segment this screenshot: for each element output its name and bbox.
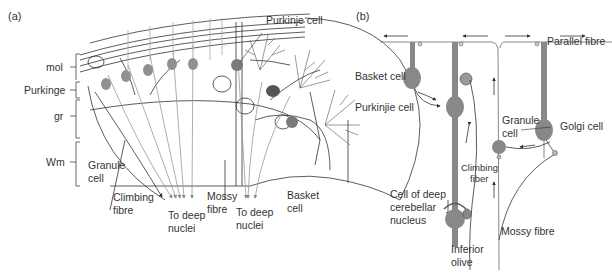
label-climbing-fibre-line1: Climbing: [113, 191, 154, 203]
label-granule-cell-a-line1: Granule: [88, 159, 125, 171]
label-to-deep-nuclei-right-line1: To deep: [236, 206, 273, 218]
label-deep-nucleus-line1: Cell of deep: [390, 188, 446, 200]
panel-b-drawing: [380, 36, 612, 270]
label-deep-nucleus-line3: nucleus: [390, 214, 426, 226]
label-purkinje-cell-a: Purkinje cell: [266, 14, 323, 26]
label-basket-cell-b: Basket cell: [355, 70, 406, 82]
label-basket-cell-a-line2: cell: [287, 202, 303, 214]
label-granule-cell-a-line2: cell: [88, 172, 104, 184]
panel-a-tag: (a): [8, 10, 21, 22]
panel-a-cells: [101, 58, 298, 128]
label-deep-nucleus-line2: cerebellar: [390, 201, 436, 213]
layer-bracket: [70, 54, 80, 186]
label-purkinje-cell-b: Purkinjie cell: [355, 101, 414, 113]
layer-label-gr: gr: [54, 110, 63, 122]
label-to-deep-nuclei-left-line1: To deep: [168, 209, 205, 221]
label-mossy-fibre-b: Mossy fibre: [501, 225, 555, 237]
label-basket-cell-a-line1: Basket: [287, 189, 319, 201]
label-inferior-olive-line1: Inferior: [451, 243, 484, 255]
label-climbing-fibre-line2: fibre: [113, 204, 133, 216]
layer-label-wm: Wm: [46, 156, 65, 168]
label-granule-cell-b-line1: Granule: [502, 114, 539, 126]
label-to-deep-nuclei-right-line2: nuclei: [236, 219, 263, 231]
label-granule-cell-b-line2: cell: [502, 127, 518, 139]
label-golgi-cell: Golgi cell: [560, 120, 603, 132]
label-mossy-fibre-a-line1: Mossy: [207, 190, 237, 202]
label-parallel-fibre: Parallel fibre: [547, 35, 605, 47]
label-inferior-olive-line2: olive: [451, 256, 473, 268]
layer-label-mol: mol: [46, 61, 63, 73]
layer-label-purkinje: Purkinge: [24, 84, 65, 96]
label-mossy-fibre-a-line2: fibre: [207, 203, 227, 215]
label-climbing-fiber-b-line1: Climbing: [461, 162, 498, 173]
label-climbing-fiber-b-line2: fiber: [470, 173, 488, 184]
panel-b-tag: (b): [356, 10, 369, 22]
label-to-deep-nuclei-left-line2: nuclei: [168, 222, 195, 234]
purkinje-axons: [108, 18, 290, 198]
